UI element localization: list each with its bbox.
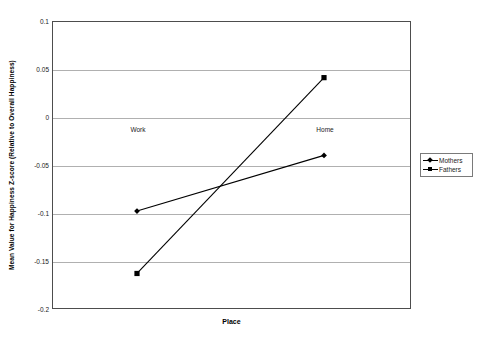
legend-entry-fathers: Fathers	[422, 165, 472, 174]
x-axis-title: Place	[52, 318, 411, 325]
legend-entry-mothers: Mothers	[422, 156, 472, 165]
line-chart: 0.1 0.05 0 -0.05 -0.1 -0.15 -0.2 Mean Va…	[0, 0, 483, 338]
square-marker-icon	[422, 165, 439, 174]
category-label-work: Work	[130, 126, 145, 134]
gridline-neg0.05	[53, 166, 410, 167]
diamond-marker-icon	[422, 156, 439, 165]
gridline-neg0.15	[53, 262, 410, 263]
legend: Mothers Fathers	[420, 153, 473, 177]
gridline-neg0.1	[53, 214, 410, 215]
plot-area: Work Home	[52, 21, 411, 309]
y-tick-label: -0.2	[5, 306, 49, 313]
category-label-home: Home	[316, 126, 333, 134]
gridline-0	[53, 118, 410, 119]
legend-label: Mothers	[439, 156, 462, 165]
y-tick-label: 0.1	[5, 18, 49, 25]
y-axis-title: Mean Value for Happiness Z-score (Relati…	[8, 45, 16, 285]
legend-label: Fathers	[439, 165, 461, 174]
gridline-0.05	[53, 70, 410, 71]
